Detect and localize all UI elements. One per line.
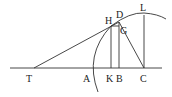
label-D: D xyxy=(116,9,123,20)
tangent-line-TD xyxy=(34,22,119,68)
label-K: K xyxy=(106,73,114,84)
label-L: L xyxy=(140,2,146,13)
label-A: A xyxy=(83,73,91,84)
label-G: G xyxy=(120,25,127,36)
label-C: C xyxy=(140,73,147,84)
label-H: H xyxy=(105,15,112,26)
geometry-diagram: T A K B C H D G L xyxy=(0,0,172,97)
label-B: B xyxy=(116,73,123,84)
label-T: T xyxy=(26,73,32,84)
